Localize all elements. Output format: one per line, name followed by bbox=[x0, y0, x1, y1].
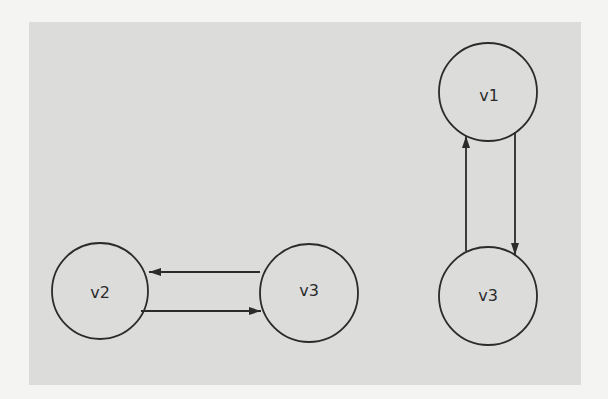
right-graph: v1 v3 bbox=[439, 43, 537, 345]
node-v3-left: v3 bbox=[260, 244, 358, 342]
left-graph: v2 v3 bbox=[52, 243, 358, 342]
node-label: v2 bbox=[90, 283, 110, 302]
node-label: v3 bbox=[478, 286, 498, 305]
graph-diagram: v2 v3 v1 v3 bbox=[0, 0, 608, 399]
node-v1: v1 bbox=[439, 43, 537, 141]
node-v3-right: v3 bbox=[439, 247, 537, 345]
node-label: v3 bbox=[299, 281, 319, 300]
node-v2: v2 bbox=[52, 243, 148, 339]
node-label: v1 bbox=[479, 86, 499, 105]
